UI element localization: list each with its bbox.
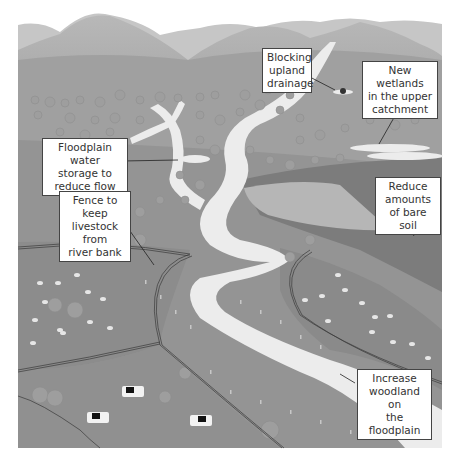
label-new-wetlands: New wetlands in the upper catchment (362, 61, 438, 119)
label-fence-livestock: Fence to keep livestock from river bank (59, 191, 131, 262)
label-reduce-bare-soil: Reduce amounts of bare soil (375, 177, 441, 235)
label-blocking-upland-drainage: Blocking upland drainage (262, 48, 312, 93)
floodplain-storage (180, 155, 210, 163)
label-increase-woodland: Increase woodland on the floodplain (357, 369, 432, 440)
label-floodplain-water-storage: Floodplain water storage to reduce flow (42, 138, 128, 196)
wetland-2 (367, 152, 443, 160)
wetland-1 (350, 144, 430, 152)
